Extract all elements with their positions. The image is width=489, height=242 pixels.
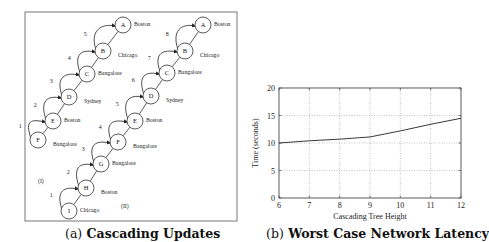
node-city-label: Bangalore (98, 70, 122, 76)
tree-link (106, 148, 113, 157)
x-tick-label: 11 (427, 201, 435, 210)
node-city-label: Boston (146, 117, 163, 123)
y-tick-label: 15 (267, 112, 275, 121)
edge-order-label: 2 (34, 102, 37, 108)
x-tick-label: 7 (307, 201, 311, 210)
latency-chart: 678910111205101520Cascading Tree HeightT… (250, 0, 488, 242)
node-id: E (51, 117, 55, 124)
x-axis-title: Cascading Tree Height (333, 212, 407, 221)
x-tick-label: 10 (396, 201, 404, 210)
y-axis-title: Time (seconds) (251, 118, 260, 168)
node-city-label: Bangalore (53, 141, 77, 147)
y-tick-label: 0 (271, 194, 275, 203)
node-id: H (84, 184, 89, 191)
node-G: GBangalore (93, 156, 136, 172)
tree-link (92, 58, 99, 68)
edge-order-label: 2 (67, 169, 70, 175)
node-city-label: Chicago (80, 207, 99, 213)
tree-link (139, 103, 146, 115)
node-city-label: Boston (101, 189, 118, 195)
chain-label: (II) (121, 203, 129, 210)
x-tick-label: 8 (338, 201, 342, 210)
y-tick-label: 20 (267, 84, 275, 93)
tree-link (123, 127, 130, 136)
caption-b-text: Worst Case Network Latency (288, 226, 489, 241)
node-id: D (67, 93, 72, 100)
node-id: C (165, 69, 169, 76)
edge-order-label: 4 (68, 55, 71, 61)
y-axis: 05101520 (267, 84, 461, 203)
y-tick-label: 10 (267, 139, 275, 148)
node-id: C (85, 70, 89, 77)
figure-network-latency: 678910111205101520Cascading Tree HeightT… (250, 0, 488, 242)
node-id: I (68, 207, 70, 214)
node-C: CBangalore (159, 65, 202, 81)
node-id: B (101, 47, 106, 54)
node-city-label: Bangalore (112, 160, 136, 166)
node-city-label: Boston (134, 21, 151, 27)
node-city-label: Chicago (118, 52, 137, 58)
node-id: A (121, 21, 126, 28)
caption-a: (a) Cascading Updates (65, 226, 220, 241)
edge-order-label: 5 (84, 31, 87, 37)
node-city-label: Sydney (84, 98, 101, 104)
edge-order-label: 1 (50, 192, 53, 198)
tree-link (57, 104, 64, 115)
tree-link (172, 57, 180, 67)
node-city-label: Boston (64, 117, 81, 123)
node-id: E (133, 117, 137, 124)
node-city-label: Chicago (200, 52, 219, 58)
node-D: DSydney (61, 89, 101, 105)
node-F: FBangalore (110, 134, 157, 150)
edge-order-label: 3 (82, 146, 85, 152)
chain-label: (I) (38, 178, 44, 185)
tree-link (74, 80, 82, 90)
node-city-label: Bangalore (133, 143, 157, 149)
tree-link (156, 80, 163, 90)
node-B: BChicago (95, 43, 137, 59)
chart-grid (279, 88, 461, 198)
node-city-label: Boston (214, 21, 231, 27)
node-I: IChicago (61, 203, 99, 219)
tree-link (190, 32, 199, 45)
figure-cascading-updates: 54321ABostonBChicagoCBangaloreDSydneyEBo… (0, 0, 250, 242)
node-id: F (36, 136, 40, 143)
node-id: D (149, 92, 154, 99)
node-F: FBangalore (30, 132, 77, 148)
caption-a-text: Cascading Updates (87, 226, 221, 241)
edge-order-label: 5 (116, 101, 119, 107)
node-B: BChicago (177, 43, 219, 59)
edge-order-label: 8 (166, 31, 169, 37)
node-D: DSydney (143, 88, 183, 104)
edge-order-label: 3 (50, 78, 53, 84)
node-A: ABoston (115, 17, 151, 33)
node-id: F (116, 138, 120, 145)
node-city-label: Bangalore (178, 69, 202, 75)
x-tick-label: 12 (457, 201, 465, 210)
caption-b: (b) Worst Case Network Latency (266, 226, 489, 241)
node-A: ABoston (195, 17, 231, 33)
edge-order-label: 4 (99, 124, 102, 130)
cascading-graph-diagram: 54321ABostonBChicagoCBangaloreDSydneyEBo… (0, 0, 250, 242)
tree-link (43, 127, 48, 133)
y-tick-label: 5 (271, 167, 275, 176)
edge-order-label: 1 (19, 123, 22, 129)
node-E: EBoston (45, 113, 81, 129)
node-H: HBoston (78, 180, 118, 196)
caption-a-label: (a) (65, 226, 82, 241)
tree-link (74, 194, 81, 204)
node-E: EBoston (127, 113, 163, 129)
tree-link (90, 171, 97, 181)
node-id: G (99, 160, 104, 167)
tree-link (108, 31, 118, 44)
node-id: B (183, 47, 188, 54)
caption-b-label: (b) (266, 226, 284, 241)
node-id: A (201, 21, 206, 28)
edge-order-label: 7 (148, 55, 151, 61)
node-C: CBangalore (79, 66, 122, 82)
x-tick-label: 6 (277, 201, 281, 210)
x-axis: 6789101112 (277, 88, 465, 210)
edge-order-label: 6 (132, 77, 135, 83)
node-city-label: Sydney (166, 97, 183, 103)
x-tick-label: 9 (368, 201, 372, 210)
